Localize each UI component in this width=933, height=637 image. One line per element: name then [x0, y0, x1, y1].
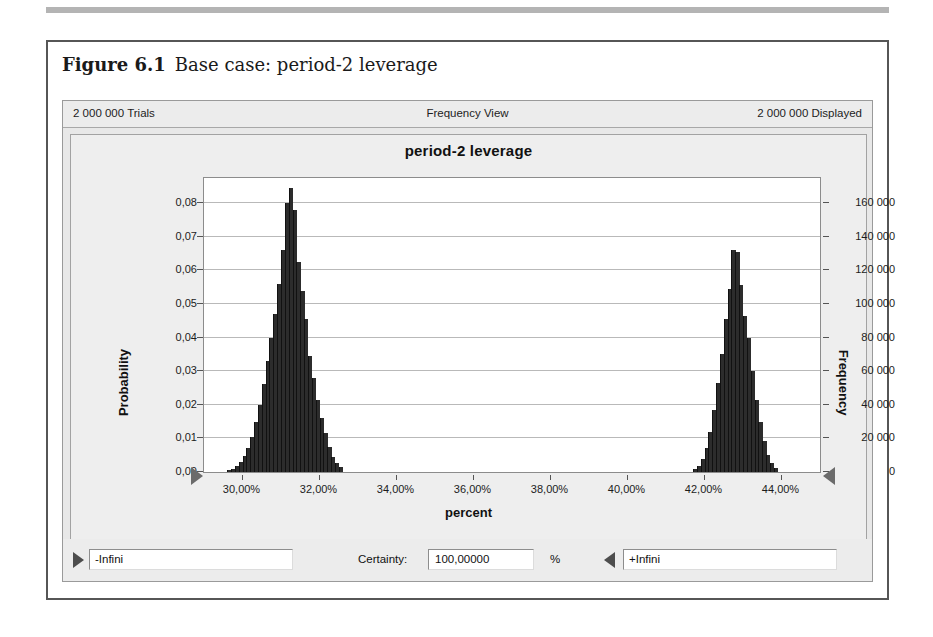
displayed-count: 2 000 000 Displayed: [757, 107, 862, 119]
x-axis-ticks: 30,00%32,00%34,00%36,00%38,00%40,00%42,0…: [203, 475, 821, 495]
y-axis-right-title-wrap: Frequency: [813, 245, 873, 405]
y-axis-left-tick-label: 0,07: [151, 230, 197, 242]
x-axis-tick-label: 32,00%: [284, 483, 354, 495]
plot-area[interactable]: [203, 177, 821, 473]
play-left-triangle-icon[interactable]: [604, 552, 615, 568]
y-axis-right-title: Frequency: [836, 323, 851, 443]
view-mode-label: Frequency View: [63, 107, 872, 119]
y-axis-left-tick-mark: [197, 337, 203, 338]
x-axis-tick-label: 34,00%: [361, 483, 431, 495]
y-axis-right-tick-label: 160 000: [833, 196, 895, 208]
y-axis-left-title-wrap: Probability: [93, 245, 153, 405]
figure-label: Figure 6.1: [62, 54, 166, 75]
y-axis-right-tick-label: 140 000: [833, 230, 895, 242]
play-right-triangle-icon[interactable]: [73, 552, 84, 568]
certainty-input[interactable]: 100,00000: [428, 549, 534, 570]
y-axis-left-tick-label: 0,01: [151, 431, 197, 443]
y-axis-left-tick-label: 0,05: [151, 297, 197, 309]
x-axis-tick-mark: [781, 475, 782, 480]
page-top-rule: [46, 7, 889, 13]
x-axis-tick-label: 38,00%: [515, 483, 585, 495]
range-handle-left-triangle-icon[interactable]: [823, 467, 835, 485]
upper-bound-input[interactable]: +Infini: [623, 549, 837, 570]
gridline: [204, 202, 820, 203]
range-handle-right-triangle-icon[interactable]: [191, 467, 203, 485]
x-axis-tick-label: 44,00%: [746, 483, 816, 495]
x-axis-tick-mark: [396, 475, 397, 480]
x-axis-tick-mark: [242, 475, 243, 480]
y-axis-left-tick-mark: [197, 303, 203, 304]
chart-title: period-2 leverage: [71, 142, 866, 159]
y-axis-left-tick-label: 0,04: [151, 331, 197, 343]
y-axis-left-tick-label: 0,02: [151, 398, 197, 410]
y-axis-left-tick-label: 0,03: [151, 364, 197, 376]
y-axis-left-tick-mark: [197, 202, 203, 203]
x-axis-tick-mark: [319, 475, 320, 480]
y-axis-right-tick-mark: [823, 437, 829, 438]
x-axis-tick-label: 30,00%: [207, 483, 277, 495]
x-axis-tick-mark: [627, 475, 628, 480]
figure-caption-text: Base case: period-2 leverage: [175, 54, 438, 75]
y-axis-left-title: Probability: [116, 323, 131, 443]
histogram-bar: [774, 468, 778, 472]
figure-container: Figure 6.1Base case: period-2 leverage 2…: [46, 40, 889, 600]
y-axis-right-tick-mark: [823, 202, 829, 203]
histogram-bar: [339, 467, 343, 472]
figure-caption: Figure 6.1Base case: period-2 leverage: [62, 54, 438, 75]
y-axis-left-tick-label: 0,06: [151, 263, 197, 275]
control-bar: -Infini Certainty: 100,00000 % +Infini: [63, 539, 872, 581]
y-axis-left-tick-mark: [197, 269, 203, 270]
percent-sign-label: %: [550, 553, 560, 565]
x-axis-tick-mark: [704, 475, 705, 480]
x-axis-tick-label: 40,00%: [592, 483, 662, 495]
forecast-window: 2 000 000 Trials Frequency View 2 000 00…: [62, 100, 873, 582]
y-axis-left-tick-mark: [197, 437, 203, 438]
x-axis-tick-mark: [473, 475, 474, 480]
y-axis-right-tick-label: 0: [833, 465, 895, 477]
x-axis-tick-label: 42,00%: [669, 483, 739, 495]
y-axis-left-tick-mark: [197, 404, 203, 405]
y-axis-left-tick-label: 0,08: [151, 196, 197, 208]
y-axis-left-tick-mark: [197, 370, 203, 371]
chart-panel: period-2 leverage 0,000,010,020,030,040,…: [70, 134, 867, 540]
status-bar: 2 000 000 Trials Frequency View 2 000 00…: [63, 101, 872, 128]
x-axis-tick-mark: [550, 475, 551, 480]
x-axis-tick-label: 36,00%: [438, 483, 508, 495]
x-axis-title: percent: [71, 505, 866, 520]
y-axis-right-tick-mark: [823, 236, 829, 237]
certainty-label: Certainty:: [358, 553, 407, 565]
y-axis-left-tick-mark: [197, 236, 203, 237]
lower-bound-input[interactable]: -Infini: [89, 549, 293, 570]
